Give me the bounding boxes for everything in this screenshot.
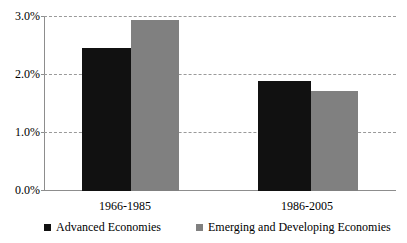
bar-chart: 3.0% 2.0% 1.0% 0.0% 1966-1985 1986-2005 …	[0, 0, 407, 243]
legend-label-advanced-economies: Advanced Economies	[56, 220, 161, 234]
bar-emerging-1986-2005[interactable]	[311, 91, 358, 191]
bar-emerging-1966-1985[interactable]	[131, 20, 179, 191]
legend-label-emerging-economies: Emerging and Developing Economies	[208, 220, 391, 234]
plot-area	[44, 16, 396, 191]
bar-advanced-1986-2005[interactable]	[258, 81, 311, 191]
y-axis-tick-labels: 3.0% 2.0% 1.0% 0.0%	[0, 0, 40, 243]
y-tick-label-3: 3.0%	[0, 10, 40, 22]
y-tick-label-0: 0.0%	[0, 184, 40, 196]
square-marker-icon-emerging	[196, 224, 203, 231]
y-tick-label-1: 1.0%	[0, 126, 40, 138]
x-tick-label-1986-2005: 1986-2005	[252, 200, 362, 212]
y-tick-label-2: 2.0%	[0, 68, 40, 80]
legend-item-advanced-economies[interactable]: Advanced Economies	[44, 220, 161, 234]
x-tick-label-1966-1985: 1966-1985	[70, 200, 180, 212]
bar-advanced-1966-1985[interactable]	[82, 48, 131, 191]
gridline-3	[44, 16, 396, 17]
chart-legend: Advanced Economies Emerging and Developi…	[0, 220, 407, 238]
square-marker-icon-advanced	[44, 224, 51, 231]
legend-item-emerging-economies[interactable]: Emerging and Developing Economies	[196, 220, 391, 234]
